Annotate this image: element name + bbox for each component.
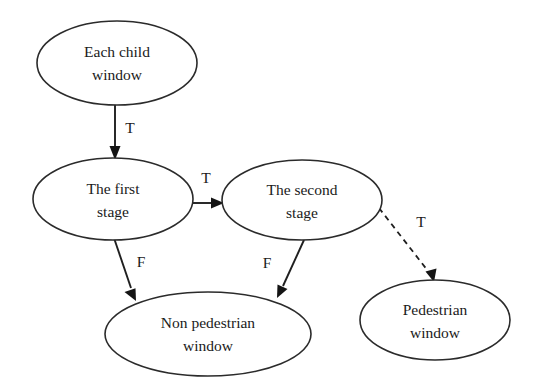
- edge-label-second-to-nonpedestrian: F: [263, 254, 272, 271]
- flowchart-canvas: T T F F T Each child: [0, 0, 533, 392]
- edge-second-to-nonpedestrian: F: [263, 240, 304, 298]
- edge-child-to-first: T: [110, 105, 136, 160]
- node-the-first-stage-ellipse[interactable]: [33, 158, 193, 240]
- node-the-first-stage-label-line2: stage: [97, 203, 129, 220]
- node-pedestrian-window-label-line1: Pedestrian: [403, 301, 468, 318]
- node-each-child-window[interactable]: Each child window: [37, 21, 197, 105]
- node-each-child-window-ellipse[interactable]: [37, 21, 197, 105]
- node-the-first-stage[interactable]: The first stage: [33, 158, 193, 240]
- node-each-child-window-label-line2: window: [92, 66, 143, 83]
- node-each-child-window-label-line1: Each child: [84, 43, 150, 60]
- node-the-second-stage[interactable]: The second stage: [222, 160, 382, 240]
- edge-first-to-nonpedestrian: F: [114, 238, 146, 301]
- edge-first-to-nonpedestrian-arrowhead: [125, 288, 137, 301]
- node-pedestrian-window-label-line2: window: [410, 324, 461, 341]
- node-pedestrian-window[interactable]: Pedestrian window: [360, 280, 510, 360]
- edge-second-to-nonpedestrian-line: [283, 240, 304, 286]
- edge-label-first-to-nonpedestrian: F: [137, 253, 146, 270]
- edge-label-second-to-pedestrian: T: [416, 213, 426, 230]
- node-the-second-stage-label-line2: stage: [286, 204, 318, 221]
- node-the-second-stage-ellipse[interactable]: [222, 160, 382, 240]
- node-pedestrian-window-ellipse[interactable]: [360, 280, 510, 360]
- node-non-pedestrian-window-label-line2: window: [183, 337, 234, 354]
- node-the-first-stage-label-line1: The first: [87, 180, 141, 197]
- node-the-second-stage-label-line1: The second: [266, 181, 337, 198]
- node-non-pedestrian-window-label-line1: Non pedestrian: [161, 314, 256, 331]
- flowchart-diagram: T T F F T Each child: [0, 0, 533, 392]
- edge-label-first-to-second: T: [201, 169, 211, 186]
- edge-first-to-second: T: [192, 169, 224, 209]
- node-non-pedestrian-window[interactable]: Non pedestrian window: [105, 292, 311, 376]
- edge-second-to-nonpedestrian-arrowhead: [277, 285, 288, 299]
- edge-second-to-pedestrian: T: [379, 208, 437, 282]
- node-non-pedestrian-window-ellipse[interactable]: [105, 292, 311, 376]
- edge-label-child-to-first: T: [125, 119, 135, 136]
- edge-first-to-nonpedestrian-line: [114, 238, 131, 288]
